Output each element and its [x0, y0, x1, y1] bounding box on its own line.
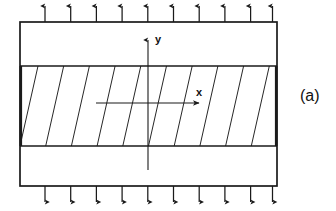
hatch-line [226, 66, 244, 146]
hatch-line [174, 66, 192, 146]
hatch-line [123, 66, 141, 146]
hatch-line [149, 66, 167, 146]
x-axis-label: x [196, 86, 203, 98]
y-axis-label: y [155, 33, 162, 45]
bottom-traction-arrows [45, 186, 273, 202]
panel-label: (a) [300, 87, 320, 104]
shear-band-hatching [20, 66, 295, 146]
hatch-line [277, 66, 295, 146]
hatch-line [46, 66, 64, 146]
hatch-line [200, 66, 218, 146]
shear-diagram: y x (a) [0, 0, 336, 211]
hatch-line [20, 66, 38, 146]
hatch-line [97, 66, 115, 146]
figure-container: y x (a) [0, 0, 336, 211]
top-traction-arrows [45, 6, 273, 22]
hatch-line [251, 66, 269, 146]
hatch-line [71, 66, 89, 146]
